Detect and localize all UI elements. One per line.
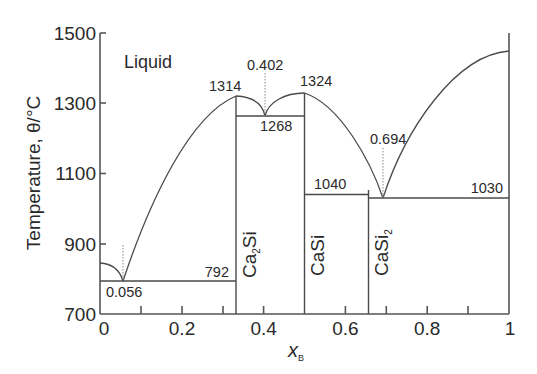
compound-lines bbox=[236, 93, 369, 314]
annotation-0.056: 0.056 bbox=[106, 284, 142, 300]
annotation-1040: 1040 bbox=[314, 176, 346, 192]
x-tick-label-0.2: 0.2 bbox=[169, 318, 195, 339]
annotation-1324: 1324 bbox=[300, 73, 332, 89]
phase-label-casi2: CaSi2 bbox=[371, 229, 394, 276]
liquidus-to-ca2si bbox=[123, 96, 236, 281]
annotation-0.694: 0.694 bbox=[370, 131, 406, 147]
casi2-sub: 2 bbox=[383, 229, 394, 235]
y-tick-label-900: 900 bbox=[64, 234, 96, 255]
phase-label-ca2si: Ca2Si bbox=[239, 231, 262, 278]
liquidus-ca-side bbox=[100, 263, 123, 281]
annotation-0.402: 0.402 bbox=[247, 57, 283, 73]
x-tick-label-0.8: 0.8 bbox=[414, 318, 440, 339]
annotation-1314: 1314 bbox=[209, 78, 241, 94]
y-tick-label-1100: 1100 bbox=[55, 163, 96, 184]
phase-diagram-chart: 1500 1300 1100 900 700 0 0.2 0.4 0.6 0.8… bbox=[0, 0, 537, 374]
y-tick-label-1500: 1500 bbox=[54, 23, 96, 44]
annotation-792: 792 bbox=[205, 264, 229, 280]
casi2-main: CaSi bbox=[371, 235, 392, 276]
y-tick-label-700: 700 bbox=[64, 304, 96, 325]
x-tick-label-1: 1 bbox=[505, 318, 516, 339]
x-axis-title: xB bbox=[287, 339, 304, 363]
y-axis-title: Temperature, θ/°C bbox=[23, 96, 44, 250]
annotation-1268: 1268 bbox=[260, 118, 292, 134]
liquid-region-label: Liquid bbox=[124, 52, 172, 72]
x-tick-label-0.6: 0.6 bbox=[332, 318, 358, 339]
liquidus-eutectic-si bbox=[383, 51, 509, 198]
x-tick-label-0: 0 bbox=[99, 318, 110, 339]
annotation-1030: 1030 bbox=[471, 180, 503, 196]
y-tick-label-1300: 1300 bbox=[54, 93, 96, 114]
liquidus-eutectic-casi bbox=[265, 93, 305, 116]
ca2si-main: Ca bbox=[239, 253, 260, 278]
ca2si-tail: Si bbox=[239, 231, 260, 248]
x-axis-sub: B bbox=[298, 353, 304, 363]
x-tick-label-0.4: 0.4 bbox=[250, 318, 277, 339]
phase-label-casi: CaSi bbox=[307, 235, 328, 276]
liquidus-ca2si-eutectic bbox=[236, 96, 265, 116]
